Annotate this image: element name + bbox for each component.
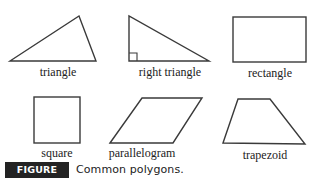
triangle-shape: [10, 16, 96, 61]
parallelogram-label: parallelogram: [109, 147, 176, 159]
right-angle-marker: [129, 53, 137, 61]
figure-caption: FIGURE 8.1 Common polygons.: [5, 161, 184, 178]
triangle-label: triangle: [40, 66, 77, 78]
square-shape: [34, 97, 80, 143]
trapezoid-label: trapezoid: [243, 149, 288, 161]
caption-text: Common polygons.: [76, 163, 184, 176]
right-triangle-shape: [129, 16, 209, 61]
parallelogram-shape: [110, 98, 202, 143]
figure-number-badge: FIGURE 8.1: [5, 162, 69, 178]
rectangle-label: rectangle: [248, 67, 292, 79]
rectangle-shape: [233, 17, 306, 62]
square-label: square: [41, 147, 72, 159]
figure-common-polygons: triangle right triangle rectangle square…: [0, 0, 318, 183]
right-triangle-label: right triangle: [139, 66, 201, 78]
trapezoid-shape: [223, 99, 305, 144]
